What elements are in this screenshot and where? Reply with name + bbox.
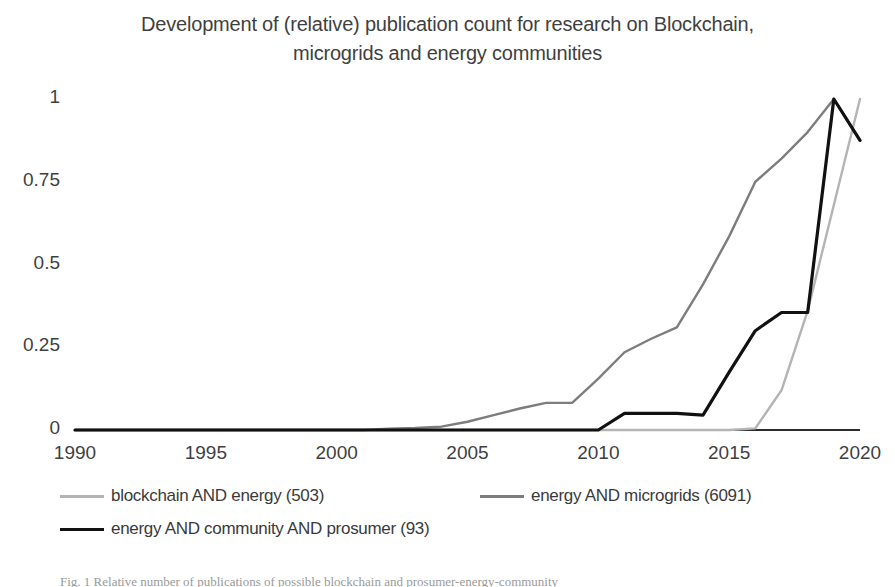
y-axis-tick-label: 0	[0, 417, 60, 439]
legend-label: energy AND community AND prosumer (93)	[111, 519, 429, 539]
legend-label: blockchain AND energy (503)	[111, 486, 324, 506]
legend-label: energy AND microgrids (6091)	[531, 486, 751, 506]
x-axis-tick-label: 2020	[825, 442, 895, 464]
legend-row-1: blockchain AND energy (503)	[60, 486, 364, 506]
chart-legend: blockchain AND energy (503) energy AND m…	[0, 486, 895, 556]
legend-item-energy-and-community-and-prosumer[interactable]: energy AND community AND prosumer (93)	[60, 519, 429, 539]
figure-container: Development of (relative) publication co…	[0, 0, 895, 587]
x-axis-tick-label: 1995	[171, 442, 241, 464]
x-axis-tick-label: 2005	[433, 442, 503, 464]
legend-row-1b: energy AND microgrids (6091)	[480, 486, 791, 506]
y-axis-tick-label: 1	[0, 86, 60, 108]
series-line-0	[75, 99, 860, 430]
x-axis-tick-label: 2010	[563, 442, 633, 464]
x-axis-tick-label: 2000	[302, 442, 372, 464]
legend-swatch-icon	[60, 495, 104, 498]
series-line-2	[75, 99, 860, 430]
y-axis-tick-label: 0.25	[0, 334, 60, 356]
plot-area: 00.250.50.751 19901995200020052010201520…	[0, 0, 895, 480]
legend-item-energy-and-microgrids[interactable]: energy AND microgrids (6091)	[480, 486, 751, 506]
y-axis-tick-label: 0.5	[0, 252, 60, 274]
legend-row-2: energy AND community AND prosumer (93)	[60, 519, 469, 539]
series-line-1	[75, 99, 860, 430]
x-axis-tick-label: 2015	[694, 442, 764, 464]
line-chart-svg	[0, 0, 895, 480]
legend-swatch-icon	[60, 528, 104, 531]
x-axis-tick-label: 1990	[40, 442, 110, 464]
y-axis-tick-label: 0.75	[0, 169, 60, 191]
legend-swatch-icon	[480, 495, 524, 498]
legend-item-blockchain-and-energy[interactable]: blockchain AND energy (503)	[60, 486, 324, 506]
figure-caption: Fig. 1 Relative number of publications o…	[60, 574, 880, 587]
